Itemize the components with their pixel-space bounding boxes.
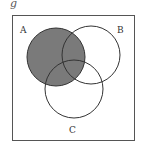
label-a: A bbox=[19, 25, 27, 35]
venn-diagram: A B C bbox=[0, 0, 142, 150]
label-c: C bbox=[69, 125, 76, 135]
label-b: B bbox=[117, 25, 124, 35]
